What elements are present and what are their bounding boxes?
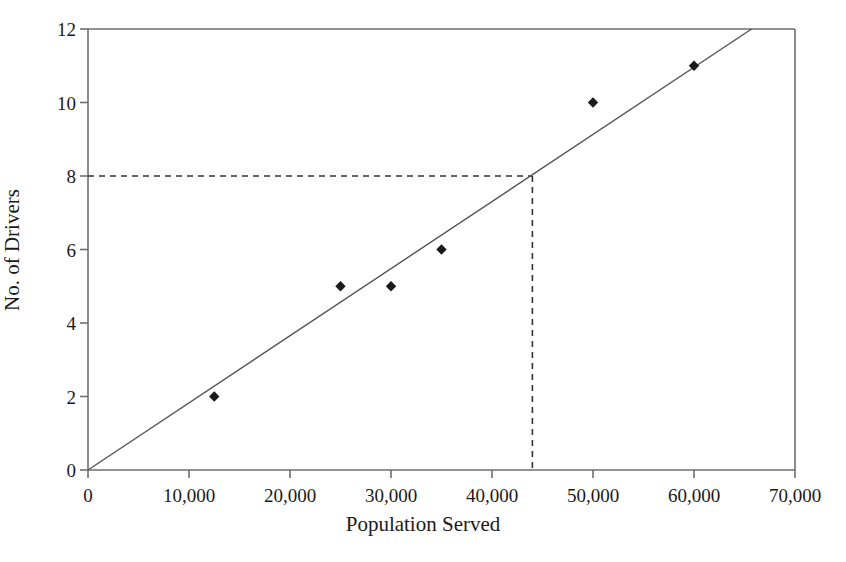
- data-point-marker: [386, 281, 396, 291]
- x-axis-tick-label: 70,000: [769, 486, 821, 505]
- y-axis-ticks: [80, 29, 88, 470]
- x-axis-tick-label: 50,000: [567, 486, 619, 505]
- y-axis-tick-label: 12: [30, 20, 76, 39]
- x-axis-ticks: [88, 470, 795, 478]
- x-axis-tick-label: 30,000: [365, 486, 417, 505]
- chart-container: 024681012 010,00020,00030,00040,00050,00…: [0, 0, 846, 562]
- x-axis-tick-label: 40,000: [466, 486, 518, 505]
- y-axis-tick-label: 10: [30, 93, 76, 112]
- x-axis-tick-label: 0: [83, 486, 93, 505]
- y-axis-tick-label: 6: [30, 240, 76, 259]
- trend-line: [88, 29, 752, 470]
- y-axis-tick-label: 2: [30, 387, 76, 406]
- data-point-marker: [335, 281, 345, 291]
- y-axis-tick-label: 4: [30, 314, 76, 333]
- x-axis-tick-label: 10,000: [163, 486, 215, 505]
- x-axis-tick-label: 60,000: [668, 486, 720, 505]
- data-point-marker: [209, 391, 219, 401]
- y-axis-tick-label: 0: [30, 461, 76, 480]
- chart-plot-svg: [0, 0, 846, 562]
- x-axis-title: Population Served: [0, 512, 846, 537]
- x-axis-tick-label: 20,000: [264, 486, 316, 505]
- y-axis-title: No. of Drivers: [0, 140, 25, 360]
- y-axis-tick-label: 8: [30, 167, 76, 186]
- data-point-markers: [209, 61, 699, 402]
- data-point-marker: [588, 97, 598, 107]
- data-point-marker: [436, 244, 446, 254]
